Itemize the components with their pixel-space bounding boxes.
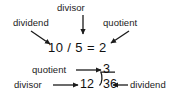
- label-quotient-bottom: quotient: [32, 64, 66, 75]
- division-terminology-diagram: dividend divisor quotient 10 / 5 = 2 quo…: [0, 0, 175, 102]
- label-quotient-top: quotient: [103, 17, 137, 28]
- arrow-quotient-top: [111, 31, 129, 43]
- long-division-quotient-value: 3: [103, 62, 110, 76]
- label-dividend-top: dividend: [13, 17, 49, 28]
- long-division-dividend-value: 36: [103, 77, 117, 91]
- long-division-divisor-value: 12: [80, 77, 94, 91]
- label-divisor-top: divisor: [57, 2, 85, 13]
- expression-inline-division: 10 / 5 = 2: [48, 40, 107, 55]
- label-divisor-bottom: divisor: [14, 79, 42, 90]
- label-dividend-bottom: dividend: [130, 79, 166, 90]
